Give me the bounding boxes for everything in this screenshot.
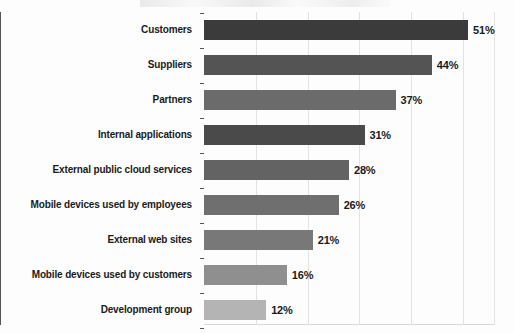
bar-row: 31%	[204, 117, 494, 152]
bar-row: 37%	[204, 82, 494, 117]
category-label: Suppliers	[148, 56, 192, 74]
axis-tick	[200, 258, 204, 259]
category-label: External web sites	[107, 231, 192, 249]
category-label: Customers	[141, 21, 192, 39]
gridline	[494, 12, 495, 325]
category-label: Partners	[153, 91, 192, 109]
bar	[204, 230, 313, 250]
axis-tick	[200, 83, 204, 84]
bar-value-label: 12%	[271, 301, 292, 319]
category-axis-labels: CustomersSuppliersPartnersInternal appli…	[0, 12, 198, 325]
plot-area: 51%44%37%31%28%26%21%16%12%	[204, 12, 494, 325]
bar	[204, 160, 349, 180]
bar-value-label: 28%	[354, 161, 375, 179]
axis-tick	[200, 48, 204, 49]
axis-tick	[200, 13, 204, 14]
bar-row: 16%	[204, 257, 494, 292]
bar-value-label: 26%	[344, 196, 365, 214]
bar-row: 12%	[204, 292, 494, 327]
category-label: Development group	[101, 301, 192, 319]
category-label: Internal applications	[98, 126, 192, 144]
bar	[204, 20, 468, 40]
bar	[204, 125, 365, 145]
scan-artifact	[140, 0, 390, 7]
bar-chart: CustomersSuppliersPartnersInternal appli…	[0, 0, 514, 333]
axis-tick	[200, 188, 204, 189]
value-axis-line	[0, 12, 1, 325]
axis-tick	[200, 153, 204, 154]
bar-row: 28%	[204, 152, 494, 187]
bar-row: 44%	[204, 47, 494, 82]
bar-value-label: 37%	[401, 91, 422, 109]
axis-tick	[200, 223, 204, 224]
bar	[204, 265, 287, 285]
bar	[204, 55, 432, 75]
bar-row: 21%	[204, 222, 494, 257]
category-label: External public cloud services	[53, 161, 192, 179]
bar	[204, 90, 396, 110]
bar	[204, 300, 266, 320]
bar	[204, 195, 339, 215]
bar-value-label: 51%	[473, 21, 494, 39]
bar-value-label: 16%	[292, 266, 313, 284]
axis-tick	[200, 328, 204, 329]
bar-value-label: 31%	[370, 126, 391, 144]
bar-value-label: 21%	[318, 231, 339, 249]
bar-row: 26%	[204, 187, 494, 222]
bar-row: 51%	[204, 12, 494, 47]
category-label: Mobile devices used by employees	[31, 196, 192, 214]
axis-tick	[200, 293, 204, 294]
axis-tick	[200, 118, 204, 119]
category-label: Mobile devices used by customers	[32, 266, 192, 284]
bar-value-label: 44%	[437, 56, 458, 74]
